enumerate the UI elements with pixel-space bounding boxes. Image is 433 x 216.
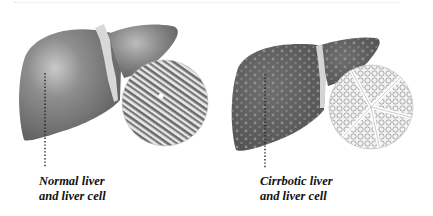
cirrhotic-label-line2: and liver cell <box>260 189 333 204</box>
cirrhotic-label-line1: Cirrbotic liver <box>260 174 333 189</box>
normal-label-line1: Normal liver <box>39 174 106 189</box>
normal-label-line2: and liver cell <box>39 189 106 204</box>
cirrhotic-liver-label: Cirrbotic liver and liver cell <box>260 174 333 204</box>
normal-liver-label: Normal liver and liver cell <box>39 174 106 204</box>
